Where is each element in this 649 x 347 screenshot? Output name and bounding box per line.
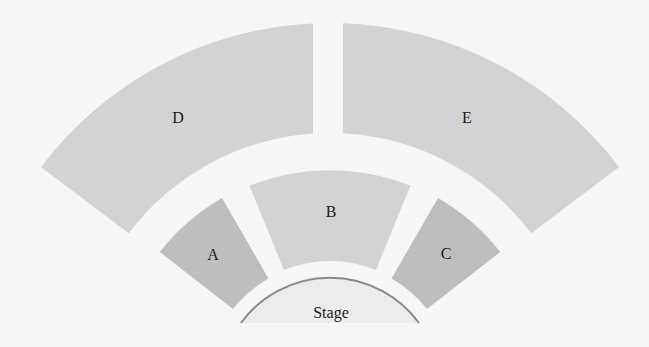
section-d-label: D	[172, 109, 184, 126]
section-b-label: B	[326, 203, 337, 220]
seating-diagram: D E B A C Stage	[0, 0, 649, 347]
section-c-label: C	[441, 245, 452, 262]
section-a-label: A	[207, 246, 219, 263]
section-b[interactable]	[250, 170, 411, 270]
section-e-label: E	[462, 109, 472, 126]
stage-label: Stage	[313, 304, 349, 322]
